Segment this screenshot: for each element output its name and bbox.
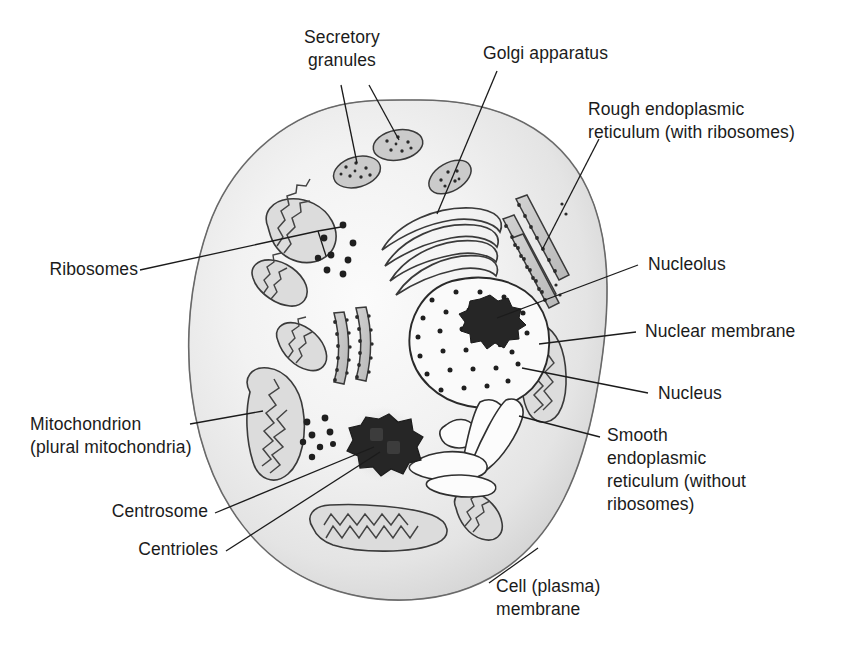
label-mitochondrion: Mitochondrion (plural mitochondria)	[30, 413, 270, 459]
label-smooth-endoplasmic-reticulum: Smooth endoplasmic reticulum (without ri…	[607, 424, 843, 516]
label-secretory-granules: Secretory granules	[246, 26, 438, 72]
label-cell-plasma-membrane: Cell (plasma) membrane	[496, 575, 706, 621]
nucleus	[409, 278, 549, 408]
label-nuclear-membrane: Nuclear membrane	[645, 320, 853, 343]
label-rough-endoplasmic-reticulum: Rough endoplasmic reticulum (with riboso…	[588, 98, 850, 144]
label-golgi-apparatus: Golgi apparatus	[483, 42, 713, 65]
label-nucleolus: Nucleolus	[648, 253, 848, 276]
label-ribosomes: Ribosomes	[18, 258, 138, 281]
nuclear-membrane	[409, 278, 549, 408]
label-centrioles: Centrioles	[78, 538, 218, 561]
label-centrosome: Centrosome	[58, 500, 208, 523]
cell-diagram-figure: Secretory granules Golgi apparatus Rough…	[0, 0, 853, 658]
label-nucleus: Nucleus	[658, 382, 848, 405]
